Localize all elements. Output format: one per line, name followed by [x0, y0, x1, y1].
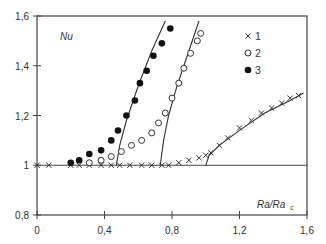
data-point: [150, 53, 157, 60]
legend-label: 1: [255, 30, 261, 42]
series-2: [86, 30, 203, 165]
x-tick-label: 1,6: [300, 225, 314, 236]
y-tick-label: 1: [23, 160, 29, 171]
data-point: [139, 137, 145, 143]
x-tick-label: 0,8: [165, 225, 179, 236]
legend-marker-3: [245, 67, 252, 74]
fit-line-series-1: [206, 93, 304, 165]
data-point: [98, 147, 105, 154]
data-point: [176, 80, 182, 86]
data-point: [194, 38, 200, 44]
data-point: [137, 80, 144, 87]
data-point: [208, 150, 213, 155]
data-point: [86, 160, 92, 166]
x-tick-label: 1,2: [233, 225, 247, 236]
fit-line-series-2: [160, 21, 199, 165]
legend-label: 3: [255, 64, 261, 76]
data-point: [186, 158, 191, 163]
series-3: [67, 25, 173, 166]
y-axis-label: Nu: [60, 31, 73, 42]
data-point: [98, 157, 104, 163]
chart: 00,40,81,21,60,811,21,41,6 Nu Ra/Ra c 12…: [0, 0, 326, 244]
data-point: [149, 130, 155, 136]
series-1: [34, 93, 301, 168]
fit-lines: [116, 21, 303, 165]
y-tick-label: 1,6: [15, 11, 29, 22]
x-axis-label-main: Ra/Ra: [257, 199, 286, 210]
data-point: [288, 95, 293, 100]
legend-marker-1: [245, 33, 250, 38]
data-point: [156, 120, 162, 126]
data-point: [167, 25, 174, 32]
data-point: [203, 153, 208, 158]
x-tick-label: 0,4: [98, 225, 112, 236]
data-point: [162, 110, 168, 116]
data-point: [296, 93, 301, 98]
data-point: [118, 149, 124, 155]
legend: 123: [245, 30, 261, 76]
legend-label: 2: [255, 47, 261, 59]
y-tick-label: 1,4: [15, 61, 29, 72]
data-point: [132, 97, 139, 104]
data-point: [115, 127, 122, 134]
legend-marker-2: [245, 50, 251, 56]
data-point: [129, 142, 135, 148]
data-point: [67, 159, 74, 166]
plot-frame: [37, 16, 307, 215]
data-point: [169, 95, 175, 101]
data-point: [188, 50, 194, 56]
data-point: [143, 67, 150, 74]
x-axis-label: Ra/Ra c: [257, 199, 294, 211]
data-point: [196, 155, 201, 160]
data-point: [181, 65, 187, 71]
data-point: [108, 137, 115, 144]
plot-axes: [33, 16, 307, 219]
x-tick-label: 0: [34, 225, 40, 236]
data-point: [123, 112, 130, 119]
data-point: [198, 30, 204, 36]
data-point: [76, 157, 83, 164]
data-points: [34, 25, 301, 168]
data-point: [86, 151, 93, 158]
data-point: [159, 40, 166, 47]
data-point: [176, 160, 181, 165]
y-tick-label: 1,2: [15, 111, 29, 122]
y-tick-label: 0,8: [15, 210, 29, 221]
data-point: [217, 143, 222, 148]
data-point: [108, 154, 114, 160]
x-axis-label-subscript: c: [290, 204, 294, 211]
